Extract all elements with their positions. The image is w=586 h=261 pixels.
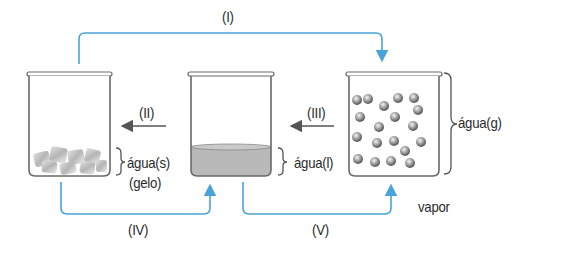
brace-gas: [444, 73, 457, 174]
label-state-gas: água(g): [458, 114, 502, 131]
label-state-solid-sub: (gelo): [129, 174, 161, 191]
label-state-liquid: água(l): [294, 154, 333, 171]
arrow-transition-I: [79, 33, 382, 64]
label-transition-III: (III): [307, 104, 325, 121]
label-state-solid: água(s): [127, 154, 170, 171]
beaker-gas: [346, 72, 442, 176]
label-state-gas-sub: vapor: [418, 198, 450, 215]
label-transition-II: (II): [139, 104, 154, 121]
state-change-diagram: (I) (II) (III) (IV) (V) água(s) (gelo) á…: [0, 0, 586, 261]
label-transition-I: (I): [222, 8, 234, 25]
beaker-solid: [27, 72, 112, 176]
brace-liquid: [278, 148, 287, 175]
beaker-liquid: [188, 72, 274, 176]
label-transition-IV: (IV): [128, 221, 148, 238]
label-transition-V: (V): [312, 221, 329, 238]
brace-solid: [116, 148, 125, 175]
arrow-transition-V: [243, 182, 391, 214]
